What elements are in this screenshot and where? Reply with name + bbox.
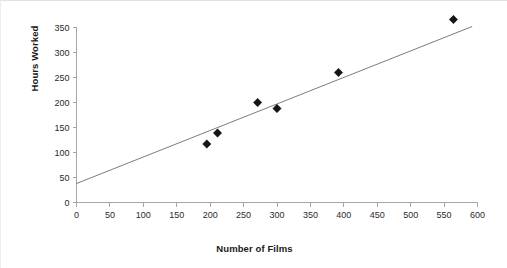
data-point-marker	[203, 140, 211, 148]
y-tick-label: 250	[54, 73, 69, 83]
x-tick-label: 450	[370, 210, 385, 220]
y-tick-label: 200	[54, 98, 69, 108]
x-tick-label: 300	[269, 210, 284, 220]
x-tick-label: 250	[236, 210, 251, 220]
data-point-marker	[334, 68, 342, 76]
data-point-marker	[273, 104, 281, 112]
y-tick-label: 50	[59, 173, 69, 183]
data-point-marker	[449, 15, 457, 23]
plot-area: 050100150200250300350 050100150200250300…	[1, 1, 507, 268]
x-tick-label: 100	[136, 210, 151, 220]
x-tick-label: 50	[105, 210, 115, 220]
trend-line	[77, 27, 473, 184]
y-tick-label: 300	[54, 48, 69, 58]
data-points	[203, 15, 458, 148]
y-tick-label: 0	[64, 198, 69, 208]
x-axis: 050100150200250300350400450500550600	[74, 203, 485, 220]
x-tick-label: 0	[74, 210, 79, 220]
trend-line-path	[77, 27, 473, 184]
scatter-chart: Hours Worked Number of Films 05010015020…	[0, 0, 507, 268]
x-tick-label: 400	[336, 210, 351, 220]
y-tick-label: 100	[54, 148, 69, 158]
x-tick-label: 600	[470, 210, 485, 220]
y-tick-label: 350	[54, 23, 69, 33]
data-point-marker	[213, 129, 221, 137]
y-tick-label: 150	[54, 123, 69, 133]
y-axis: 050100150200250300350	[54, 23, 76, 208]
x-tick-label: 150	[169, 210, 184, 220]
data-point-marker	[253, 98, 261, 106]
x-tick-label: 500	[403, 210, 418, 220]
x-tick-label: 550	[437, 210, 452, 220]
x-tick-label: 350	[303, 210, 318, 220]
x-tick-label: 200	[203, 210, 218, 220]
